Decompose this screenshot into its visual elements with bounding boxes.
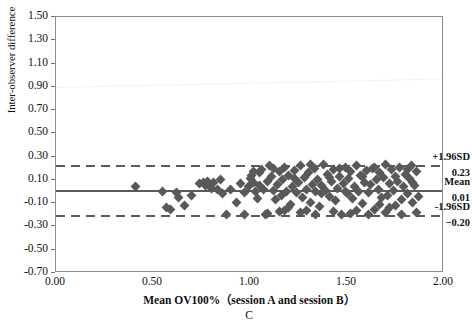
x-axis-title: Mean OV100%（session A and session B） xyxy=(55,291,443,307)
y-axis-tick-label: 0.10 xyxy=(0,173,48,185)
scan-artifact-streak xyxy=(55,78,443,88)
lower-limit-of-agreement-label: -1.96SD xyxy=(435,201,470,212)
x-axis-tick-label: 1.50 xyxy=(336,276,356,288)
plot-area xyxy=(55,16,443,272)
data-point xyxy=(158,187,168,197)
mean-difference-label: Mean xyxy=(444,176,470,187)
data-point xyxy=(239,210,249,220)
lower-limit-of-agreement-value: −0.20 xyxy=(446,217,470,228)
data-point xyxy=(222,210,232,220)
y-axis-tick xyxy=(51,272,55,273)
data-point xyxy=(396,210,406,220)
data-point xyxy=(179,201,189,211)
data-point xyxy=(231,197,241,207)
data-point xyxy=(358,198,368,208)
data-point xyxy=(354,187,364,197)
x-axis-tick-label: 1.00 xyxy=(239,276,259,288)
y-axis-tick-label: -0.70 xyxy=(0,266,48,278)
data-point xyxy=(330,196,340,206)
panel-label: C xyxy=(55,309,443,321)
y-axis-tick-label: 0.30 xyxy=(0,150,48,162)
bland-altman-figure: 1.501.301.100.900.700.500.300.10-0.10-0.… xyxy=(0,0,472,325)
y-axis-tick-label: -0.10 xyxy=(0,196,48,208)
y-axis-tick-label: -0.30 xyxy=(0,219,48,231)
x-axis-tick-label: 0.50 xyxy=(142,276,162,288)
data-point xyxy=(253,194,263,204)
data-point xyxy=(412,167,422,177)
x-axis-tick-label: 2.00 xyxy=(433,276,453,288)
upper-limit-of-agreement-label: +1.96SD xyxy=(432,151,470,162)
data-point xyxy=(363,188,373,198)
x-axis-tick-label: 0.00 xyxy=(45,276,65,288)
y-axis-tick-label: -0.50 xyxy=(0,243,48,255)
y-axis-title: Inter-observer difference xyxy=(5,0,17,150)
